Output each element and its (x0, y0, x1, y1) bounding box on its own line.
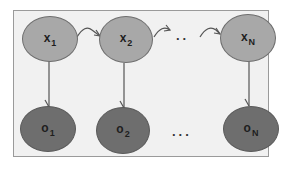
hidden-ellipsis: .. (176, 28, 189, 43)
observation-ellipsis: ... (172, 124, 192, 139)
observation-o1: o1 (20, 106, 76, 152)
observation-oN: oN (223, 106, 279, 152)
transition-edge-2-dots (154, 28, 170, 37)
hidden-state-x2: x2 (99, 16, 153, 63)
observation-o2: o2 (96, 107, 150, 154)
hidden-state-xN: xN (220, 14, 276, 62)
hidden-state-x1: x1 (22, 16, 78, 62)
